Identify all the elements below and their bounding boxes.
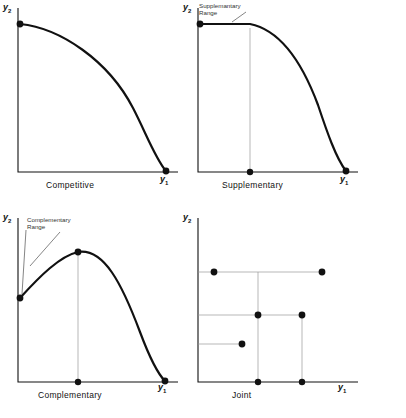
annotation-leader-line-2 (30, 232, 60, 266)
x-axis-sub: 1 (163, 388, 166, 394)
x-axis-sub: 1 (343, 388, 346, 394)
curve-peak-dot (75, 249, 82, 256)
panel-complementary-plot (0, 210, 200, 396)
data-point (211, 269, 218, 276)
annotation-complementary-range: Complementary Range (27, 216, 71, 230)
y1-axis-label-competitive: y1 (160, 174, 168, 186)
caption-joint: Joint (232, 390, 251, 400)
panel-joint: y2 y1 Joint (180, 210, 406, 418)
axis-marker-dot (255, 379, 261, 385)
curve-start-dot (197, 21, 204, 28)
y1-axis-label-joint: y1 (338, 382, 346, 394)
y-axis-sub: 2 (8, 8, 11, 14)
panel-competitive: y2 y1 Competitive (0, 0, 200, 200)
panel-joint-plot (180, 210, 400, 396)
range-marker-dot (247, 169, 253, 175)
panel-competitive-plot (0, 0, 200, 190)
curve-start-dot (17, 21, 24, 28)
panel-supplementary-plot (180, 0, 400, 190)
curve-supplementary (200, 24, 346, 171)
y-axis-sub: 2 (188, 218, 191, 224)
caption-complementary: Complementary (38, 390, 102, 400)
axes-joint (198, 218, 358, 382)
range-marker-dot (75, 379, 81, 385)
curve-complementary (20, 252, 165, 381)
caption-supplementary: Supplementary (222, 180, 283, 190)
y2-axis-label-complementary: y2 (3, 212, 11, 224)
caption-competitive: Competitive (46, 180, 94, 190)
panel-supplementary: y2 y1 Supplemantary Range Supplementary (180, 0, 406, 200)
x-axis-sub: 1 (345, 180, 348, 186)
data-point (255, 312, 262, 319)
axes-complementary (18, 218, 178, 382)
y-axis-sub: 2 (8, 218, 11, 224)
annotation-supplementary-range: Supplemantary Range (199, 2, 241, 16)
y2-axis-label-competitive: y2 (3, 2, 11, 14)
curve-competitive (20, 24, 166, 171)
data-point (239, 341, 246, 348)
y2-axis-label-joint: y2 (183, 212, 191, 224)
data-point (319, 269, 326, 276)
axis-marker-dot (299, 379, 305, 385)
curve-start-dot (17, 295, 24, 302)
y1-axis-label-complementary: y1 (158, 382, 166, 394)
panel-complementary: y2 y1 Complementary Range Complementary (0, 210, 200, 418)
y1-axis-label-supplementary: y1 (340, 174, 348, 186)
data-point (299, 312, 306, 319)
axes-competitive (18, 8, 178, 172)
y2-axis-label-supplementary: y2 (183, 2, 191, 14)
annotation-leader-line-1 (22, 230, 26, 294)
y-axis-sub: 2 (188, 8, 191, 14)
x-axis-sub: 1 (165, 180, 168, 186)
